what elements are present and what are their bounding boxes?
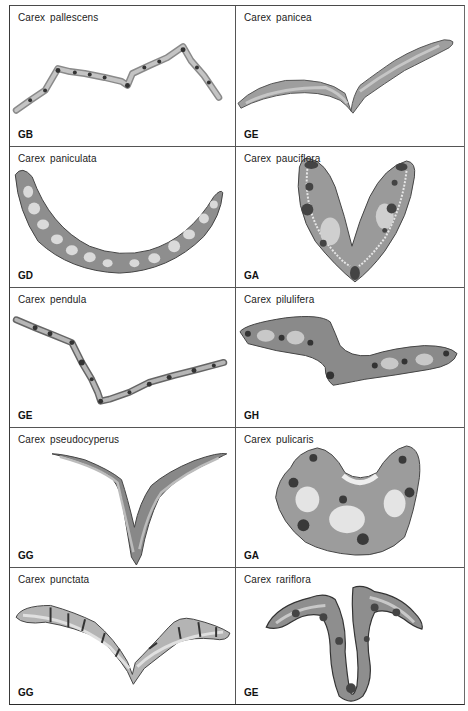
panel-carex-pilulifera: Carex pilulifera GH — [236, 288, 464, 428]
leaf-cross-section-image — [236, 6, 464, 146]
panel-carex-punctata: Carex punctata GG — [10, 568, 236, 704]
group-code: GE — [244, 129, 258, 140]
group-code: GB — [18, 129, 33, 140]
species-label: Carex pallescens — [18, 12, 98, 23]
species-label: Carex pauciflora — [244, 153, 320, 164]
panel-carex-rariflora: Carex rariflora GE — [236, 568, 464, 704]
leaf-cross-section-image — [10, 568, 235, 704]
leaf-cross-section-image — [236, 568, 464, 704]
panel-carex-panicea: Carex panicea GE — [236, 6, 464, 147]
panel-carex-pulicaris: Carex pulicaris GA — [236, 428, 464, 568]
leaf-cross-section-image — [10, 6, 235, 146]
species-label: Carex pulicaris — [244, 434, 314, 445]
species-label: Carex paniculata — [18, 153, 97, 164]
group-code: GG — [18, 550, 34, 561]
leaf-cross-section-image — [236, 288, 464, 427]
species-label: Carex panicea — [244, 12, 312, 23]
species-label: Carex pendula — [18, 294, 86, 305]
group-code: GH — [244, 410, 259, 421]
panel-carex-pauciflora: Carex pauciflora GA — [236, 147, 464, 288]
leaf-cross-section-image — [10, 288, 235, 427]
panel-carex-pendula: Carex pendula GE — [10, 288, 236, 428]
panel-carex-paniculata: Carex paniculata GD — [10, 147, 236, 288]
species-label: Carex punctata — [18, 574, 89, 585]
species-label: Carex rariflora — [244, 574, 311, 585]
group-code: GA — [244, 270, 259, 281]
species-label: Carex pseudocyperus — [18, 434, 119, 445]
group-code: GA — [244, 550, 259, 561]
leaf-cross-section-image — [236, 428, 464, 567]
group-code: GD — [18, 270, 33, 281]
leaf-cross-section-image — [10, 428, 235, 567]
leaf-cross-section-image — [10, 147, 235, 287]
panel-carex-pseudocyperus: Carex pseudocyperus GG — [10, 428, 236, 568]
panel-carex-pallescens: Carex pallescens GB — [10, 6, 236, 147]
group-code: GE — [18, 410, 32, 421]
figure-plate: Carex pallescens GB Carex panicea GE Car… — [9, 5, 465, 705]
species-label: Carex pilulifera — [244, 294, 314, 305]
group-code: GE — [244, 687, 258, 698]
leaf-cross-section-image — [236, 147, 464, 287]
group-code: GG — [18, 687, 34, 698]
